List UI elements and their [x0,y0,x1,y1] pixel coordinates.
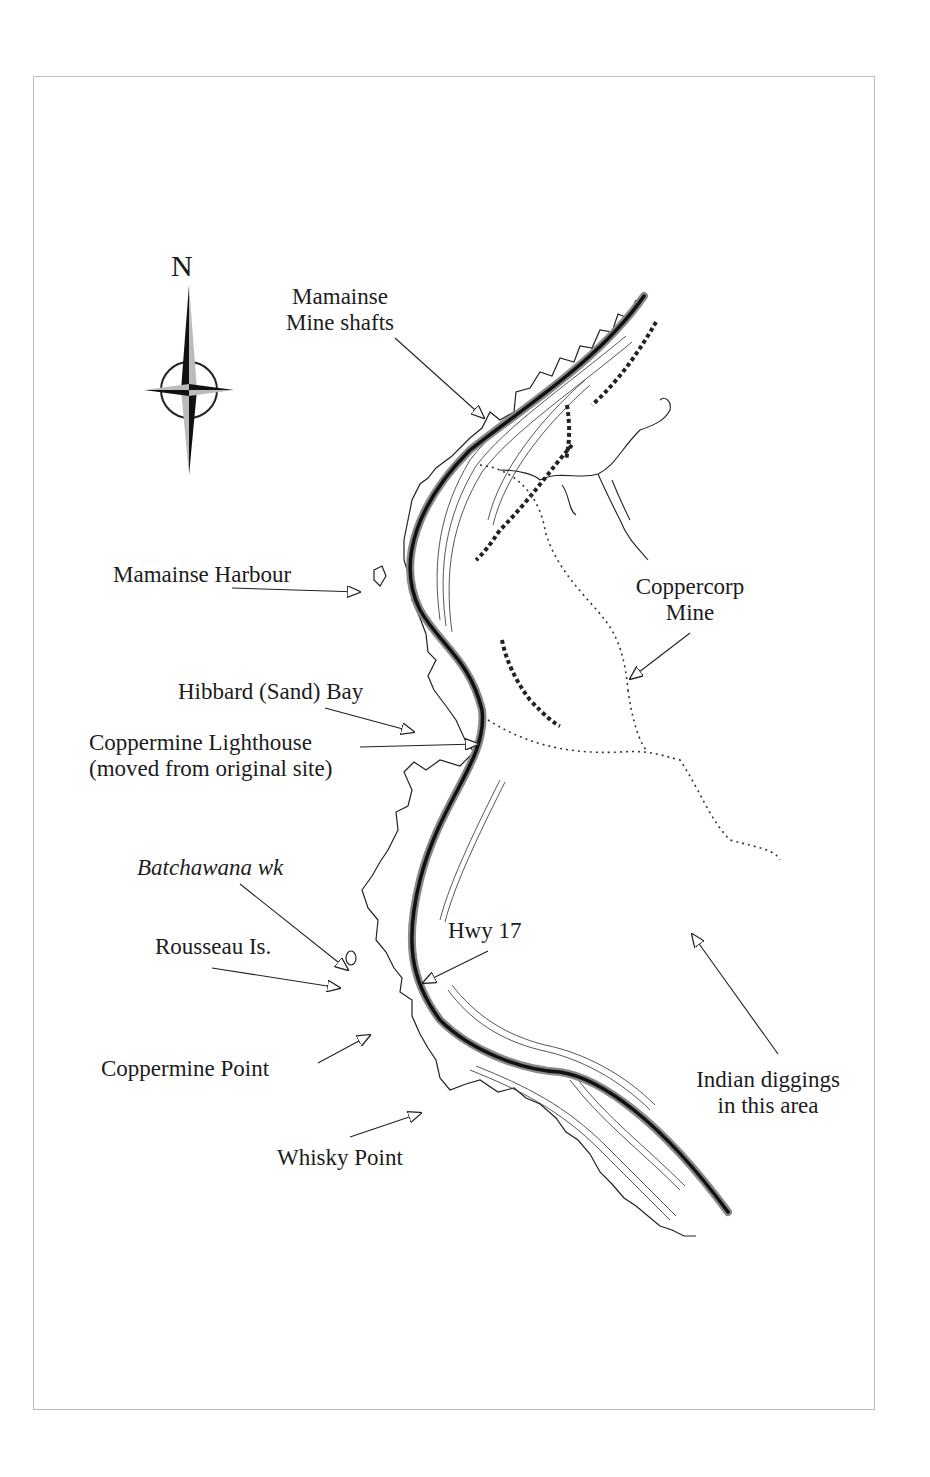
arrow-coppermine-lighthouse [360,744,478,747]
contour-lines [437,330,685,1220]
label-rousseau-is: Rousseau Is. [155,934,271,960]
label-indian-diggings: Indian diggings in this area [678,1067,858,1119]
trails [480,465,780,860]
label-hibbard-bay: Hibbard (Sand) Bay [178,679,363,705]
arrow-coppermine-point [318,1035,370,1063]
ridge-hatching [476,322,656,726]
arrow-coppercorp-mine [630,633,690,679]
label-batchawana-wk: Batchawana wk [137,855,283,881]
arrow-mamainse-harbour [232,588,360,592]
compass-rose-icon [144,285,234,475]
shoreline [346,300,696,1236]
arrow-hwy-17 [423,951,488,983]
arrow-rousseau-is [212,968,340,988]
creeks [500,398,670,560]
label-hwy-17: Hwy 17 [448,918,521,944]
compass-north-label: N [171,250,193,282]
label-coppermine-lighthouse: Coppermine Lighthouse (moved from origin… [89,730,332,782]
label-mamainse-mine-shafts: Mamainse Mine shafts [270,284,410,336]
label-coppermine-point: Coppermine Point [101,1056,269,1082]
label-mamainse-harbour: Mamainse Harbour [113,562,291,588]
label-coppercorp-mine: Coppercorp Mine [620,574,760,626]
arrow-hibbard-bay [325,708,414,732]
label-whisky-point: Whisky Point [277,1145,403,1171]
arrow-indian-diggings [692,934,778,1054]
arrow-mamainse-mine-shafts [395,338,484,418]
arrow-whisky-point [350,1113,421,1137]
